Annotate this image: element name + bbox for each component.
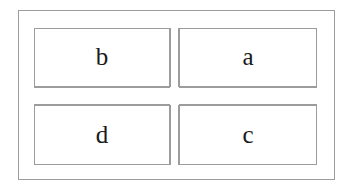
gutter-row-left <box>34 87 170 105</box>
cell-top-left-label: b <box>96 44 109 69</box>
cell-bottom-right: c <box>179 105 317 165</box>
gutter-column-bottom <box>170 105 179 165</box>
gutter-intersection <box>170 87 179 105</box>
cell-top-right-label: a <box>242 44 253 69</box>
cell-bottom-right-label: c <box>242 122 253 147</box>
figure-canvas: b a d c <box>0 0 353 193</box>
cell-bottom-left: d <box>34 105 170 165</box>
cell-bottom-left-label: d <box>96 122 109 147</box>
grid-table: b a d c <box>34 28 317 165</box>
gutter-column-top <box>170 28 179 87</box>
cell-top-left: b <box>34 28 170 87</box>
cell-top-right: a <box>179 28 317 87</box>
gutter-row-right <box>179 87 317 105</box>
